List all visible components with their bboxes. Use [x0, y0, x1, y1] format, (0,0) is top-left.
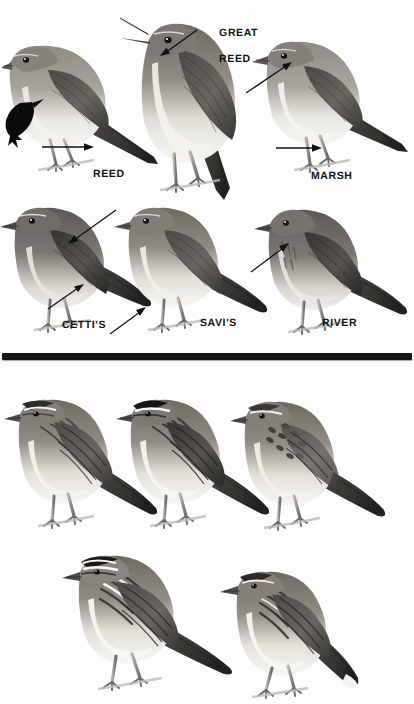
label-river: RIVER	[322, 317, 357, 329]
marsh-leg-pointer-arrow	[274, 141, 324, 155]
bird-grasshopper	[226, 388, 394, 538]
bird-fan-tailed	[218, 562, 408, 702]
fan-tailed-warbler-figure	[218, 562, 408, 702]
great-reed-head-pointer-arrow	[155, 28, 199, 58]
bird-marsh	[250, 34, 414, 184]
lower-panel: SEDGE	[0, 366, 414, 704]
label-marsh: MARSH	[311, 170, 353, 182]
reed-leg-pointer-arrow	[40, 140, 96, 154]
river-breast-pointer-arrow	[249, 241, 295, 275]
grasshopper-warbler-figure	[226, 388, 394, 538]
warbler-identification-plate: REED	[0, 0, 414, 704]
label-cettis: CETTI'S	[62, 319, 106, 331]
upper-panel: REED	[0, 0, 414, 352]
cettis-undertail-pointer-arrow	[46, 282, 88, 312]
marsh-warbler-figure	[250, 34, 414, 184]
label-savis: SAVI'S	[200, 317, 237, 329]
marsh-throat-pointer-arrow	[244, 60, 296, 96]
panel-divider-bar	[2, 353, 412, 360]
